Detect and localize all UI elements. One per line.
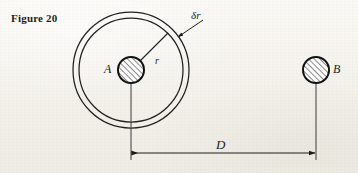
body-a-circle	[118, 57, 144, 83]
body-b-label: B	[333, 63, 340, 75]
figure-drawing	[0, 0, 358, 173]
shell-thickness-leader-line	[178, 20, 203, 37]
radius-label: r	[155, 56, 159, 66]
figure-caption: Figure 20	[11, 12, 58, 24]
figure-canvas: Figure 20 A B r D δr	[0, 0, 358, 173]
shell-thickness-label: δr	[191, 10, 200, 21]
separation-label: D	[216, 138, 225, 151]
body-b-circle	[303, 57, 329, 83]
body-a-label: A	[104, 63, 111, 75]
shell-thickness-variable: r	[196, 9, 200, 21]
